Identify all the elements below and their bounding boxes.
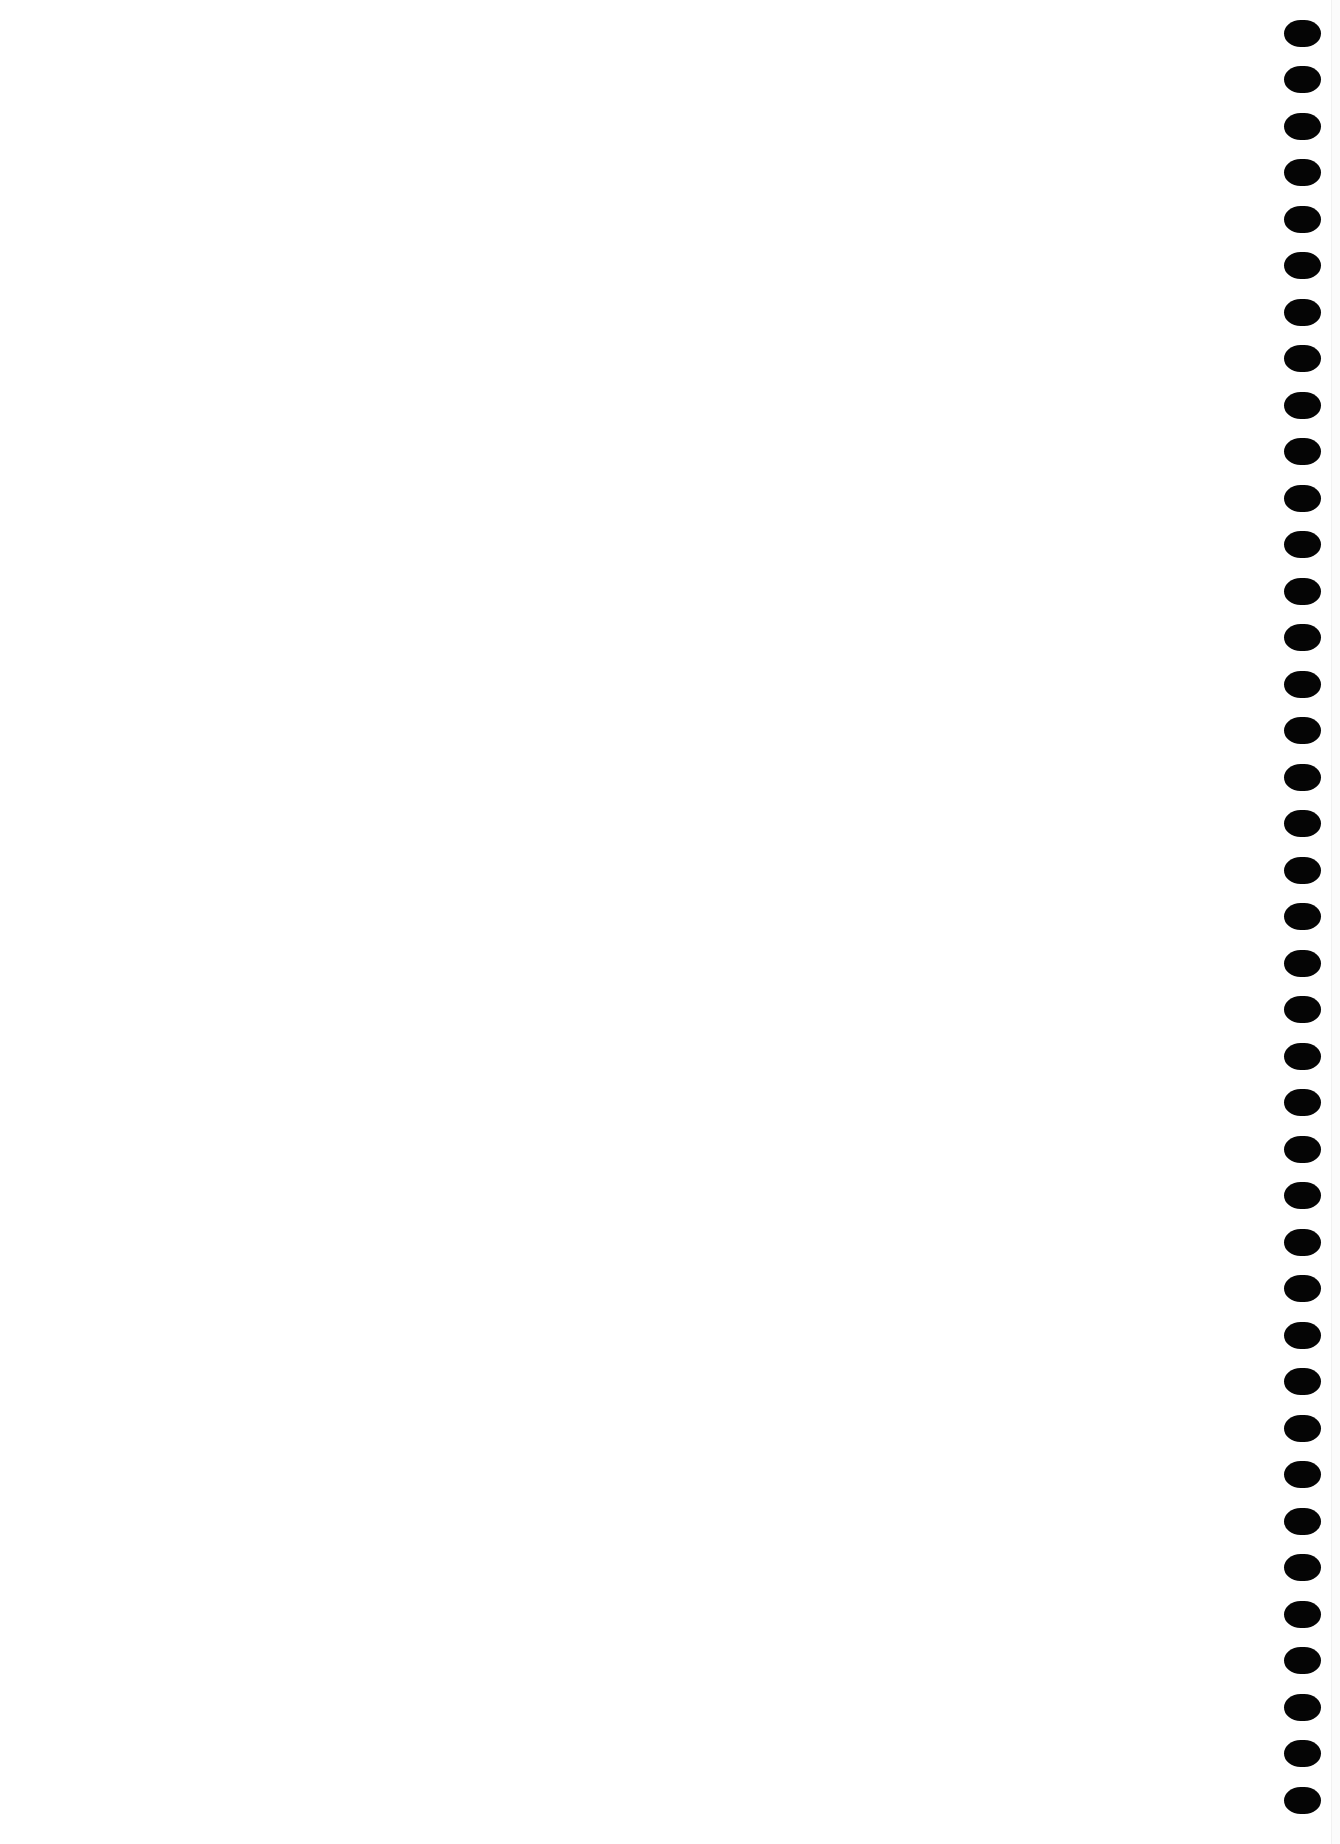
binding-hole-icon <box>1284 1043 1321 1070</box>
binding-hole-icon <box>1284 206 1321 233</box>
binding-hole-icon <box>1284 1368 1321 1395</box>
binding-hole-icon <box>1284 578 1321 605</box>
binding-hole-icon <box>1284 1694 1321 1721</box>
binding-hole-icon <box>1284 66 1321 93</box>
binding-hole-icon <box>1284 1554 1321 1581</box>
binding-hole-icon <box>1284 1275 1321 1302</box>
binding-hole-icon <box>1284 252 1321 279</box>
binding-hole-icon <box>1284 950 1321 977</box>
binding-hole-icon <box>1284 903 1321 930</box>
binding-hole-icon <box>1284 1601 1321 1628</box>
page-edge <box>1331 0 1340 1844</box>
binding-hole-icon <box>1284 159 1321 186</box>
binding-hole-icon <box>1284 1740 1321 1767</box>
binding-hole-icon <box>1284 810 1321 837</box>
blank-page <box>0 0 1331 1844</box>
binding-hole-icon <box>1284 1508 1321 1535</box>
binding-hole-icon <box>1284 671 1321 698</box>
binding-hole-icon <box>1284 624 1321 651</box>
binding-hole-icon <box>1284 392 1321 419</box>
binding-hole-icon <box>1284 485 1321 512</box>
binding-hole-icon <box>1284 438 1321 465</box>
binding-holes-column <box>1284 0 1322 1844</box>
binding-hole-icon <box>1284 857 1321 884</box>
binding-hole-icon <box>1284 717 1321 744</box>
binding-hole-icon <box>1284 113 1321 140</box>
binding-hole-icon <box>1284 345 1321 372</box>
binding-hole-icon <box>1284 1136 1321 1163</box>
binding-hole-icon <box>1284 20 1321 47</box>
binding-hole-icon <box>1284 764 1321 791</box>
binding-hole-icon <box>1284 1415 1321 1442</box>
binding-hole-icon <box>1284 299 1321 326</box>
binding-hole-icon <box>1284 1322 1321 1349</box>
binding-hole-icon <box>1284 1089 1321 1116</box>
binding-hole-icon <box>1284 1647 1321 1674</box>
binding-hole-icon <box>1284 1229 1321 1256</box>
binding-hole-icon <box>1284 531 1321 558</box>
binding-hole-icon <box>1284 1461 1321 1488</box>
binding-hole-icon <box>1284 996 1321 1023</box>
binding-hole-icon <box>1284 1182 1321 1209</box>
binding-hole-icon <box>1284 1787 1321 1814</box>
